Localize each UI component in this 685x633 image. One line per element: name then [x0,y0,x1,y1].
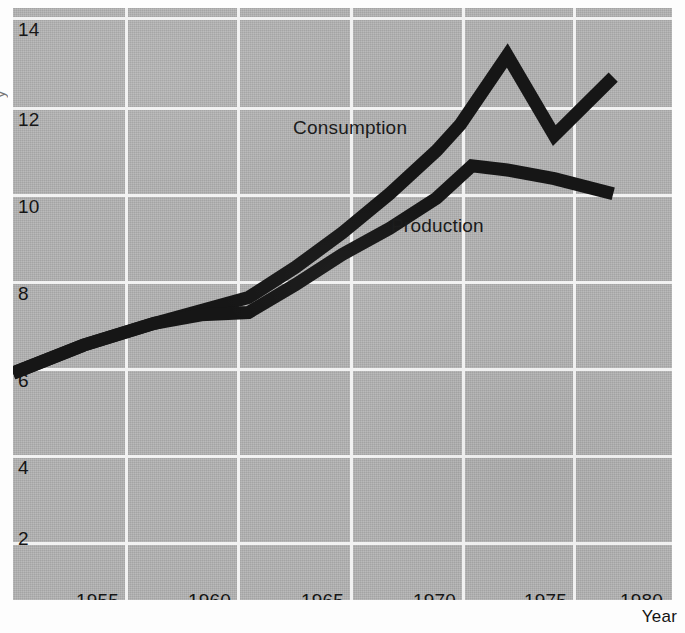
series-label-consumption: Consumption [293,118,407,137]
series-layer [13,8,672,600]
series-label-production: Production [391,216,484,235]
consumption-line [13,56,613,374]
production-line [13,166,613,373]
figure-root: y 14 12 10 8 6 4 2 1955 1960 1965 1970 1… [0,0,685,633]
plot-area: 14 12 10 8 6 4 2 1955 1960 1965 1970 197… [13,8,672,600]
x-axis-title: Year [642,607,677,627]
cropped-edge-caption: y [0,2,13,98]
